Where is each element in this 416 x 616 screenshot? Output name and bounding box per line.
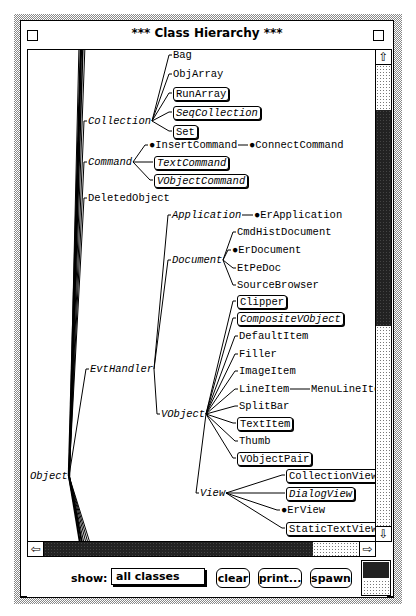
- class-node-view[interactable]: View: [200, 487, 225, 499]
- class-node-defaultitem[interactable]: DefaultItem: [239, 330, 308, 342]
- scroll-right-icon[interactable]: ⇨: [359, 542, 375, 556]
- print-button[interactable]: print...: [258, 568, 302, 588]
- class-node-set[interactable]: Set: [173, 125, 198, 139]
- class-node-dialogview[interactable]: DialogView: [286, 487, 355, 501]
- title-bar[interactable]: *** Class Hierarchy ***: [20, 22, 394, 46]
- swatch-light: [363, 580, 389, 594]
- window-title: *** Class Hierarchy ***: [20, 26, 394, 40]
- class-node-menulineitem[interactable]: MenuLineItem: [311, 383, 376, 395]
- class-node-insertcommand[interactable]: ●InsertCommand: [149, 139, 237, 151]
- scroll-left-icon[interactable]: ⇦: [28, 542, 44, 556]
- class-node-splitbar[interactable]: SplitBar: [239, 400, 289, 412]
- class-node-cmdhistdocument[interactable]: CmdHistDocument: [237, 226, 332, 238]
- class-node-collectionview[interactable]: CollectionView: [286, 469, 376, 483]
- vertical-scroll-thumb[interactable]: [376, 110, 391, 326]
- class-node-clipper[interactable]: Clipper: [237, 295, 287, 309]
- class-node-object[interactable]: Object: [30, 470, 68, 482]
- class-node-textcommand[interactable]: TextCommand: [154, 156, 229, 170]
- class-hierarchy-canvas[interactable]: ObjectCollectionBagObjArrayRunArraySeqCo…: [27, 49, 376, 542]
- class-node-command[interactable]: Command: [88, 156, 132, 168]
- class-node-bag[interactable]: Bag: [173, 49, 192, 61]
- class-node-vobjectpair[interactable]: VObjectPair: [237, 452, 312, 466]
- control-bar: show: all classes clear print... spawn: [20, 558, 394, 598]
- class-node-erapplication[interactable]: ●ErApplication: [254, 209, 342, 221]
- vertical-scrollbar[interactable]: ⇧ ⇩: [375, 49, 392, 542]
- pattern-swatch[interactable]: [361, 560, 391, 596]
- horizontal-scrollbar[interactable]: ⇦ ⇨: [27, 541, 376, 557]
- class-node-sourcebrowser[interactable]: SourceBrowser: [237, 279, 319, 291]
- scroll-down-icon[interactable]: ⇩: [376, 526, 391, 541]
- class-node-vobject[interactable]: VObject: [161, 408, 205, 420]
- class-node-collection[interactable]: Collection: [88, 115, 151, 127]
- show-label: show:: [71, 572, 108, 585]
- class-node-erview[interactable]: ●ErView: [281, 504, 325, 516]
- class-node-application[interactable]: Application: [172, 209, 241, 221]
- class-node-evthandler[interactable]: EvtHandler: [90, 363, 153, 375]
- class-node-statictextview[interactable]: StaticTextView: [286, 522, 376, 536]
- horizontal-scroll-thumb[interactable]: [44, 542, 313, 556]
- class-node-imageitem[interactable]: ImageItem: [239, 365, 296, 377]
- class-node-objarray[interactable]: ObjArray: [173, 68, 223, 80]
- show-filter-field[interactable]: all classes: [111, 568, 205, 585]
- scroll-up-icon[interactable]: ⇧: [376, 50, 391, 65]
- zoom-box-icon[interactable]: [373, 30, 384, 41]
- class-node-etpedoc[interactable]: EtPeDoc: [237, 262, 281, 274]
- class-node-erdocument[interactable]: ●ErDocument: [232, 244, 301, 256]
- class-node-filler[interactable]: Filler: [239, 348, 277, 360]
- class-node-thumb[interactable]: Thumb: [239, 435, 271, 447]
- class-node-compositevobject[interactable]: CompositeVObject: [237, 312, 344, 326]
- class-node-seqcollection[interactable]: SeqCollection: [173, 106, 261, 120]
- class-node-vobjectcommand[interactable]: VObjectCommand: [154, 174, 248, 188]
- class-node-deletedobject[interactable]: DeletedObject: [88, 192, 170, 204]
- clear-button[interactable]: clear: [216, 568, 250, 588]
- swatch-dark: [363, 562, 389, 578]
- class-node-textitem[interactable]: TextItem: [237, 417, 293, 431]
- class-node-lineitem[interactable]: LineItem: [239, 383, 289, 395]
- class-node-document[interactable]: Document: [172, 254, 222, 266]
- class-node-runarray[interactable]: RunArray: [173, 87, 229, 101]
- class-node-connectcommand[interactable]: ●ConnectCommand: [249, 139, 344, 151]
- spawn-button[interactable]: spawn: [310, 568, 352, 588]
